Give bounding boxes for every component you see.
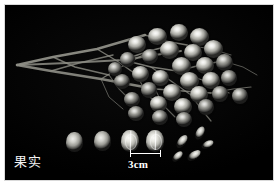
berry bbox=[216, 54, 233, 71]
berry bbox=[132, 66, 149, 82]
berry bbox=[124, 92, 140, 107]
whole-fruit-specimen bbox=[66, 132, 83, 152]
specimen-photograph: 3cm 果实 bbox=[5, 5, 273, 180]
berry bbox=[152, 110, 168, 125]
berry bbox=[170, 24, 188, 41]
berry bbox=[212, 86, 228, 102]
berry bbox=[232, 88, 248, 104]
berry bbox=[221, 70, 237, 86]
berry bbox=[198, 99, 214, 115]
cut-fruit-specimen bbox=[121, 130, 139, 152]
fruit-septum bbox=[129, 131, 131, 150]
scale-bar-label: 3cm bbox=[128, 158, 148, 170]
scale-bar-rule bbox=[130, 153, 161, 154]
figure-caption-label: 果实 bbox=[14, 155, 42, 168]
berry bbox=[142, 49, 158, 64]
fruit-septum bbox=[154, 131, 156, 150]
berry bbox=[120, 52, 135, 67]
berry bbox=[108, 62, 122, 76]
berry bbox=[176, 112, 192, 127]
scale-bar-tick-right bbox=[160, 150, 161, 157]
berry bbox=[160, 41, 179, 59]
berry bbox=[128, 106, 144, 121]
berry bbox=[114, 74, 130, 89]
scale-bar-tick-left bbox=[130, 150, 131, 157]
whole-fruit-specimen bbox=[94, 131, 111, 151]
figure-root: 3cm 果实 bbox=[0, 0, 280, 189]
cut-fruit-specimen bbox=[146, 130, 164, 152]
